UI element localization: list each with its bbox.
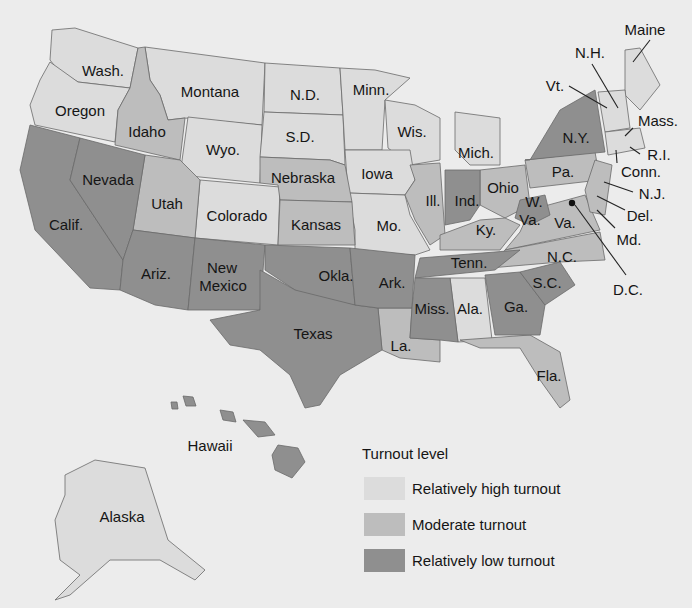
label-idaho: Idaho <box>128 124 166 139</box>
label-ky: Ky. <box>476 222 497 237</box>
label-ill: Ill. <box>426 193 441 208</box>
legend-item-moderate: Moderate turnout <box>362 506 560 542</box>
label-mich: Mich. <box>458 145 494 160</box>
label-sd: S.D. <box>285 129 314 144</box>
legend-item-high: Relatively high turnout <box>362 470 560 506</box>
label-wva-1: W. <box>525 194 543 209</box>
legend-label-moderate: Moderate turnout <box>412 516 526 533</box>
label-pa: Pa. <box>552 164 575 179</box>
label-alaska: Alaska <box>99 509 144 524</box>
label-conn: Conn. <box>621 164 661 179</box>
label-utah: Utah <box>151 196 183 211</box>
label-la: La. <box>391 338 412 353</box>
label-wis: Wis. <box>397 124 426 139</box>
label-dc: D.C. <box>613 282 643 297</box>
label-fla: Fla. <box>536 368 561 383</box>
label-minn: Minn. <box>353 82 390 97</box>
state-hawaii-island <box>272 445 305 478</box>
label-colorado: Colorado <box>207 208 268 223</box>
label-wash: Wash. <box>82 63 124 78</box>
label-ohio: Ohio <box>487 180 519 195</box>
label-ala: Ala. <box>457 301 483 316</box>
state-hawaii-niihau <box>171 402 178 409</box>
legend-label-low: Relatively low turnout <box>412 552 555 569</box>
label-ariz: Ariz. <box>141 266 171 281</box>
label-nm-1: New <box>207 260 237 275</box>
state-hawaii-maui <box>243 420 275 437</box>
label-va: Va. <box>554 215 575 230</box>
label-nh: N.H. <box>575 45 605 60</box>
label-nj: N.J. <box>639 186 666 201</box>
label-nc: N.C. <box>547 249 577 264</box>
legend-title: Turnout level <box>362 445 560 462</box>
label-tenn: Tenn. <box>451 255 488 270</box>
label-ga: Ga. <box>504 299 528 314</box>
label-md: Md. <box>616 232 641 247</box>
label-ri: R.I. <box>647 147 670 162</box>
label-ny: N.Y. <box>562 130 589 145</box>
map-legend: Turnout level Relatively high turnout Mo… <box>362 445 560 578</box>
state-alaska <box>55 460 205 600</box>
state-hawaii-kauai <box>183 396 196 406</box>
label-vt: Vt. <box>546 78 564 93</box>
label-mass: Mass. <box>638 113 678 128</box>
label-del: Del. <box>627 208 654 223</box>
label-wva-2: Va. <box>519 212 540 227</box>
label-mo: Mo. <box>376 218 401 233</box>
legend-swatch-low <box>364 549 405 572</box>
label-ind: Ind. <box>454 193 479 208</box>
label-maine: Maine <box>625 22 666 37</box>
label-oregon: Oregon <box>55 103 105 118</box>
label-calif: Calif. <box>49 217 83 232</box>
label-okla: Okla. <box>318 268 353 283</box>
state-mass-conn-ri <box>605 128 645 155</box>
state-vt-nh <box>598 90 630 132</box>
label-montana: Montana <box>181 84 239 99</box>
label-sc: S.C. <box>532 275 561 290</box>
label-nm-2: Mexico <box>199 278 247 293</box>
legend-item-low: Relatively low turnout <box>362 542 560 578</box>
state-maine <box>625 48 660 110</box>
label-iowa: Iowa <box>361 166 393 181</box>
dc-marker <box>569 200 575 206</box>
label-texas: Texas <box>293 326 332 341</box>
legend-label-high: Relatively high turnout <box>412 480 560 497</box>
label-nebraska: Nebraska <box>271 170 335 185</box>
label-kansas: Kansas <box>291 217 341 232</box>
state-hawaii-oahu <box>220 410 236 422</box>
label-miss: Miss. <box>415 301 450 316</box>
legend-swatch-high <box>364 477 405 500</box>
label-wyo: Wyo. <box>206 142 240 157</box>
label-ark: Ark. <box>379 275 406 290</box>
label-hawaii: Hawaii <box>187 438 232 453</box>
legend-swatch-moderate <box>364 513 405 536</box>
label-nd: N.D. <box>290 87 320 102</box>
label-nevada: Nevada <box>82 172 134 187</box>
